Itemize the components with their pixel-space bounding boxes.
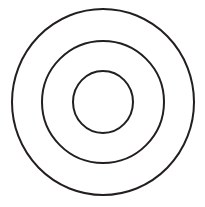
canvas-background xyxy=(0,0,205,207)
concentric-circles-diagram xyxy=(0,0,205,207)
figure-canvas xyxy=(0,0,205,207)
